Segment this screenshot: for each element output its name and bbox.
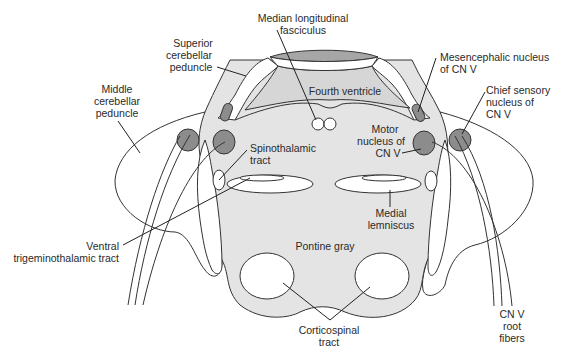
label-vtt-2: trigeminothalamic tract [13,252,119,264]
cn-v-root-fibers-right-2 [462,136,502,306]
pons-diagram: Median longitudinal fasciculus Superior … [0,0,564,355]
label-mcp-3: peduncle [96,107,139,119]
cn-v-root-fibers-left-2 [135,135,190,305]
label-root-2: root [503,320,521,332]
label-spinothalamic-2: tract [250,154,271,166]
label-root-3: fibers [499,332,525,344]
label-ml-2: lemniscus [368,219,415,231]
label-ml-1: Medial [376,207,407,219]
label-scp-2: cerebellar [166,49,213,61]
label-vtt-1: Ventral [86,240,119,252]
label-chief-1: Chief sensory [486,84,551,96]
label-mcp-2: cerebellar [94,95,141,107]
label-scp-1: Superior [173,37,213,49]
spinothalamic-tract-right [425,171,437,191]
label-motor-2: nucleus of [357,135,405,147]
label-cst-2: tract [319,336,340,348]
label-motor-3: CN V [375,147,400,159]
chief-sensory-nucleus-left [177,129,199,151]
chief-sensory-nucleus-right [449,129,471,151]
label-chief-3: CN V [486,108,511,120]
label-root-1: CN V [499,308,524,320]
mlf-left [312,118,324,130]
motor-nucleus-right [413,131,435,155]
label-mesencephalic-1: Mesencephalic nucleus [440,51,549,63]
leader-mcp [118,121,140,153]
mlf-right [324,118,336,130]
label-cst-1: Corticospinal [299,324,360,336]
corticospinal-tract-left [240,253,294,299]
label-chief-2: nucleus of [486,96,534,108]
label-mesencephalic-2: of CN V [440,63,477,75]
label-motor-1: Motor [372,123,399,135]
label-spinothalamic-1: Spinothalamic [250,142,316,154]
diagram-canvas: Median longitudinal fasciculus Superior … [0,0,564,355]
cn-v-root-fibers-right-1 [455,136,494,306]
leader-chief [462,92,485,134]
label-scp-3: peduncle [170,61,213,73]
label-mlf-1: Median longitudinal [258,12,348,24]
label-fourth-ventricle: Fourth ventricle [309,85,382,97]
label-mcp-1: Middle [102,83,133,95]
label-pontine-gray: Pontine gray [296,240,356,252]
medial-lemniscus-right-inner [362,175,406,181]
label-mlf-2: fasciculus [280,24,326,36]
